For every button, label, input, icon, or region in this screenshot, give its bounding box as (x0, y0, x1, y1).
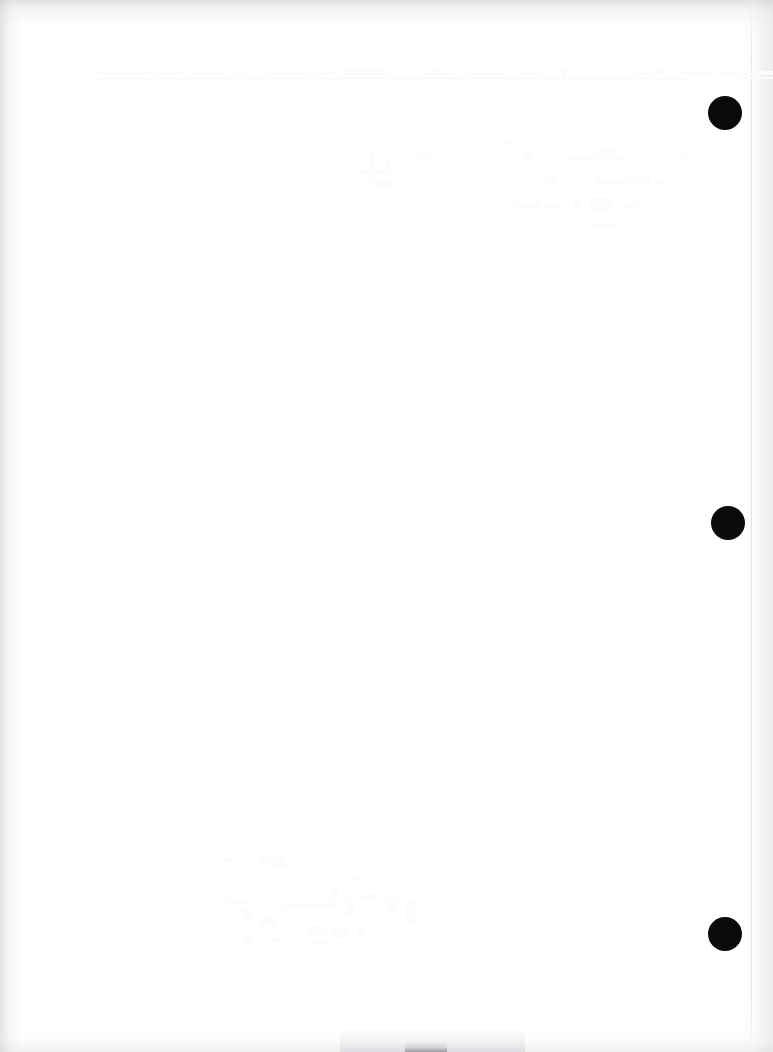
scan-smudge (405, 1042, 447, 1052)
scan-edge-shadow-left (0, 0, 24, 1052)
sheet-edge-rule (751, 0, 752, 1052)
trace-region-faint-frame (95, 78, 687, 160)
scanned-page: Scanned blank document page No legible t… (0, 0, 773, 1052)
page-content-notice: No legible text content on page (0, 0, 1, 1)
scan-edge-shadow-top (0, 0, 773, 26)
trace-region-lower-mid (200, 840, 452, 962)
punch-hole-bottom (708, 917, 742, 951)
punch-hole-middle (711, 506, 745, 540)
punch-hole-top (708, 96, 742, 130)
page-title: Scanned blank document page (0, 0, 1, 1)
